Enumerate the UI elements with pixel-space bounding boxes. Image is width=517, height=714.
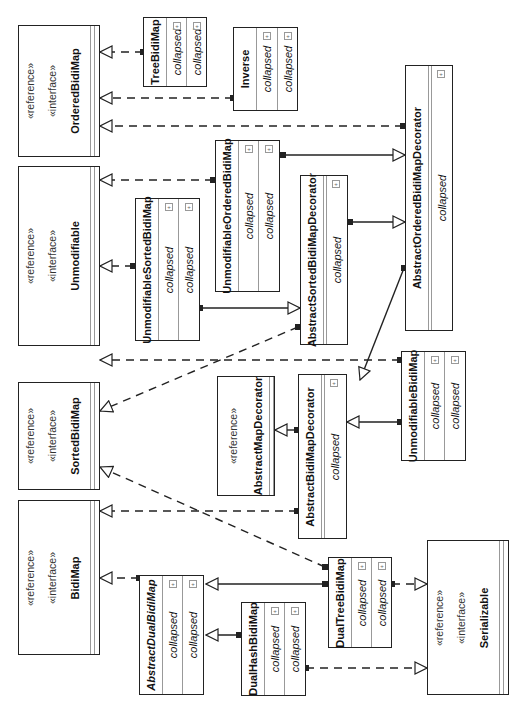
compartment-divider: [90, 26, 95, 156]
stereotype-interface: «interface»: [46, 552, 58, 604]
class-name: AbstractDualBidiMap: [145, 579, 157, 690]
section-collapsed: collapsed: [263, 193, 275, 239]
interface-bidi-map[interactable]: «reference» «interface» BidiMap: [18, 500, 100, 655]
compartment-divider: [90, 383, 95, 489]
section-collapsed: collapsed: [289, 626, 301, 672]
stereotype-interface: «interface»: [46, 230, 58, 282]
class-dual-hash-bidi-map[interactable]: DualHashBidiMap collapsed+ collapsed+: [241, 602, 306, 696]
expand-icon[interactable]: +: [291, 607, 299, 615]
class-name: UnmodifiableSortedBidiMap: [141, 196, 153, 343]
class-name: Serializable: [478, 587, 490, 648]
section-collapsed: collapsed: [331, 237, 343, 283]
reference-abstract-map-decorator[interactable]: «reference» AbstractMapDecorator: [217, 376, 275, 496]
stereotype-interface: «interface»: [46, 65, 58, 117]
expand-icon[interactable]: +: [173, 22, 181, 30]
section-collapsed: collapsed: [163, 246, 175, 292]
section-collapsed: collapsed: [269, 626, 281, 672]
interface-sorted-bidi-map[interactable]: «reference» «interface» SortedBidiMap: [18, 382, 100, 490]
section-collapsed: collapsed: [436, 175, 448, 221]
expand-icon[interactable]: +: [189, 580, 197, 588]
interface-serializable[interactable]: «reference» «interface» Serializable: [427, 540, 509, 695]
class-abstract-bidi-map-decorator[interactable]: AbstractBidiMapDecorator collapsed+: [298, 374, 347, 539]
class-name: DualTreeBidiMap: [334, 558, 346, 647]
stereotype-reference: «reference»: [24, 408, 36, 464]
section-collapsed: collapsed: [191, 29, 203, 75]
expand-icon[interactable]: +: [451, 356, 459, 364]
section-collapsed: collapsed: [261, 46, 273, 92]
class-name: Unmodifiable: [69, 221, 81, 291]
compartment-divider: [499, 541, 504, 694]
class-abstract-sorted-bidi-map-decorator[interactable]: AbstractSortedBidiMapDecorator collapsed…: [300, 175, 348, 345]
class-name: AbstractOrderedBidiMapDecorator: [411, 107, 423, 289]
class-name: UnmodifiableBidiMap: [407, 350, 419, 462]
expand-icon[interactable]: +: [431, 356, 439, 364]
expand-icon[interactable]: +: [378, 562, 386, 570]
stereotype-reference: «reference»: [227, 408, 239, 464]
expand-icon[interactable]: +: [358, 562, 366, 570]
class-name: TreeBidiMap: [149, 19, 161, 84]
stereotype-interface: «interface»: [46, 410, 58, 462]
class-name: Inverse: [239, 50, 251, 89]
class-name: DualHashBidiMap: [247, 602, 259, 696]
stereotype-reference: «reference»: [24, 228, 36, 284]
section-collapsed: collapsed: [243, 193, 255, 239]
expand-icon[interactable]: +: [330, 379, 338, 387]
stereotype-reference: «reference»: [433, 589, 445, 645]
class-name: AbstractBidiMapDecorator: [304, 387, 316, 526]
section-collapsed: collapsed: [187, 612, 199, 658]
section-collapsed: collapsed: [429, 383, 441, 429]
expand-icon[interactable]: +: [245, 145, 253, 153]
compartment-divider: [90, 167, 95, 345]
class-abstract-dual-bidi-map[interactable]: AbstractDualBidiMap collapsed+ collapsed…: [139, 575, 204, 695]
class-inverse[interactable]: Inverse collapsed+ collapsed+: [233, 27, 298, 111]
section-collapsed: collapsed: [171, 29, 183, 75]
class-dual-tree-bidi-map[interactable]: DualTreeBidiMap collapsed+ collapsed+: [328, 557, 392, 648]
expand-icon[interactable]: +: [165, 203, 173, 211]
expand-icon[interactable]: +: [332, 180, 340, 188]
stereotype-reference: «reference»: [24, 549, 36, 605]
class-abstract-ordered-bidi-map-decorator[interactable]: AbstractOrderedBidiMapDecorator collapse…: [405, 65, 453, 331]
class-unmodifiable-sorted-bidi-map[interactable]: UnmodifiableSortedBidiMap collapsed+ col…: [135, 198, 200, 341]
stereotype-reference: «reference»: [24, 63, 36, 119]
class-name: OrderedBidiMap: [69, 48, 81, 134]
class-unmodifiable-bidi-map[interactable]: UnmodifiableBidiMap collapsed+ collapsed…: [401, 351, 466, 461]
section-collapsed: collapsed: [376, 579, 388, 625]
expand-icon[interactable]: +: [265, 145, 273, 153]
expand-icon[interactable]: +: [193, 22, 201, 30]
expand-icon[interactable]: +: [169, 580, 177, 588]
section-collapsed: collapsed: [167, 612, 179, 658]
expand-icon[interactable]: +: [271, 607, 279, 615]
class-unmodifiable-ordered-bidi-map[interactable]: UnmodifiableOrderedBidiMap collapsed+ co…: [215, 140, 280, 292]
class-name: AbstractMapDecorator: [252, 377, 264, 496]
section-collapsed: collapsed: [183, 246, 195, 292]
class-name: BidiMap: [69, 556, 81, 599]
interface-unmodifiable[interactable]: «reference» «interface» Unmodifiable: [18, 166, 100, 346]
expand-icon[interactable]: +: [284, 32, 292, 40]
section-collapsed: collapsed: [282, 46, 294, 92]
expand-icon[interactable]: +: [263, 32, 271, 40]
class-name: AbstractSortedBidiMapDecorator: [306, 173, 318, 347]
stereotype-interface: «interface»: [455, 592, 467, 644]
interface-ordered-bidi-map[interactable]: «reference» «interface» OrderedBidiMap: [18, 25, 100, 157]
section-collapsed: collapsed: [449, 383, 461, 429]
expand-icon[interactable]: +: [185, 203, 193, 211]
section-collapsed: collapsed: [356, 579, 368, 625]
compartment-divider: [269, 377, 274, 495]
section-collapsed: collapsed: [329, 433, 341, 479]
class-tree-bidi-map[interactable]: TreeBidiMap collapsed+ collapsed+: [143, 17, 207, 87]
compartment-divider: [90, 501, 95, 654]
class-name: SortedBidiMap: [69, 397, 81, 475]
expand-icon[interactable]: +: [437, 70, 445, 78]
class-name: UnmodifiableOrderedBidiMap: [221, 138, 233, 293]
